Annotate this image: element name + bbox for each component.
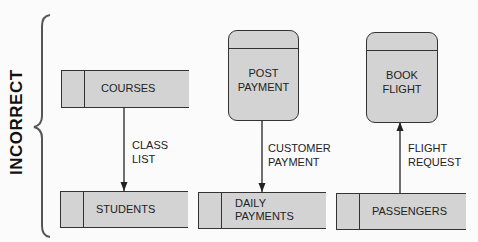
flow-label-flight-request: FLIGHT REQUEST <box>408 141 461 169</box>
store-label: COURSES <box>101 82 155 95</box>
data-store-passengers[interactable]: PASSENGERS <box>336 193 466 230</box>
process-label-line: FLIGHT <box>367 82 437 96</box>
process-label-line: PAYMENT <box>229 80 298 94</box>
store-label: DAILY PAYMENTS <box>235 197 294 223</box>
process-header-divider <box>367 50 437 51</box>
data-store-courses[interactable]: COURSES <box>61 70 189 108</box>
process-post-payment[interactable]: POST PAYMENT <box>228 30 299 121</box>
process-label: POST PAYMENT <box>229 66 298 94</box>
store-id-divider <box>83 192 84 227</box>
process-label-line: POST <box>229 66 298 80</box>
process-label: BOOK FLIGHT <box>367 68 437 96</box>
flow-label-line: CLASS <box>132 138 168 152</box>
data-store-students[interactable]: STUDENTS <box>60 191 188 228</box>
store-label: PASSENGERS <box>372 205 447 218</box>
flow-label-line: PAYMENT <box>268 155 331 169</box>
flow-label-customer-payment: CUSTOMER PAYMENT <box>268 141 331 169</box>
flow-label-line: FLIGHT <box>408 141 461 155</box>
flow-label-line: REQUEST <box>408 155 461 169</box>
store-label-line: PAYMENTS <box>235 210 294 223</box>
store-id-divider <box>84 71 85 107</box>
store-id-divider <box>359 194 360 229</box>
process-book-flight[interactable]: BOOK FLIGHT <box>366 32 438 123</box>
process-label-line: BOOK <box>367 68 437 82</box>
store-label: STUDENTS <box>96 203 155 216</box>
flow-label-line: LIST <box>132 152 168 166</box>
store-id-divider <box>221 193 222 228</box>
data-store-daily-payments[interactable]: DAILY PAYMENTS <box>198 192 326 229</box>
flow-label-line: CUSTOMER <box>268 141 331 155</box>
store-label-line: DAILY <box>235 197 294 210</box>
process-header-divider <box>229 48 298 49</box>
flow-label-class-list: CLASS LIST <box>132 138 168 166</box>
